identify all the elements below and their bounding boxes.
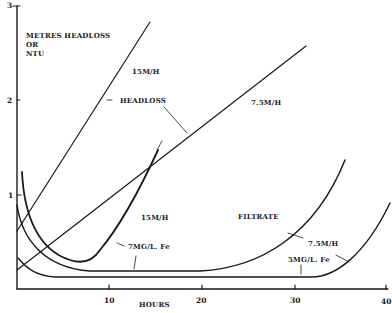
filtrate-15mh-label: 15M/H xyxy=(141,213,169,222)
headloss-label: HEADLOSS xyxy=(120,96,166,105)
filtrate-label: FILTRATE xyxy=(238,212,279,221)
y-axis-label-line1: METRES HEADLOSS xyxy=(26,31,110,40)
y-tick-label-2: 2 xyxy=(7,96,12,105)
chart-canvas xyxy=(0,0,392,313)
fe5-label: 5MG/L. Fe xyxy=(288,255,330,264)
x-tick-label-10: 10 xyxy=(104,296,114,305)
headloss-leader-3 xyxy=(157,141,162,150)
filtrate-75-leader-2 xyxy=(336,255,349,262)
x-axis-label: HOURS xyxy=(139,300,170,309)
y-axis-label-line3: NTU xyxy=(26,49,44,58)
y-tick-label-3: 3 xyxy=(7,1,12,10)
headloss-15mh-label: 15M/H xyxy=(132,67,160,76)
y-axis-label-line2: OR xyxy=(26,40,38,49)
x-tick-label-30: 30 xyxy=(290,296,300,305)
x-tick-label-20: 20 xyxy=(196,296,206,305)
y-tick-label-1: 1 xyxy=(8,191,13,200)
headloss-leader-2 xyxy=(164,107,187,133)
filtrate-75mh-label: 7.5M/H xyxy=(308,239,338,248)
headloss-75mh-line xyxy=(17,46,306,270)
fe7-label: 7MG/L. Fe xyxy=(128,242,170,251)
fe7-leader xyxy=(117,243,124,246)
headloss-75mh-label: 7.5M/H xyxy=(251,98,281,107)
fe7-leader-2 xyxy=(134,256,136,269)
x-tick-label-40: 40 xyxy=(381,297,391,306)
